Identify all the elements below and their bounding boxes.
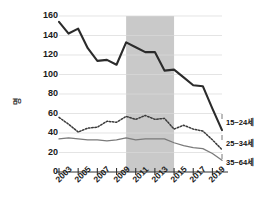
legend-label-2: 25~34세	[226, 140, 254, 148]
legend-label-3: 35~64세	[226, 159, 254, 167]
line-chart: 명 020406080100120140160 2003200520072009…	[0, 0, 276, 212]
legend-label-1: 15~24세	[226, 119, 254, 127]
